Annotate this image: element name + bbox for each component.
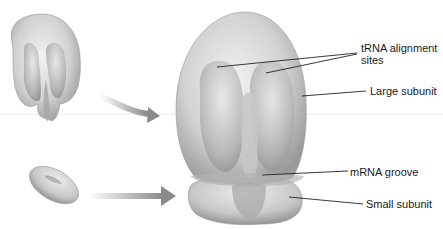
label-large-subunit: Large subunit	[370, 85, 437, 97]
leader-large-subunit	[302, 91, 366, 96]
label-mrna-groove: mRNA groove	[350, 166, 418, 178]
assembled-ribosome	[176, 12, 306, 225]
label-small-subunit: Small subunit	[366, 198, 432, 210]
label-trna-line2: sites	[361, 54, 437, 66]
separate-small-subunit	[23, 159, 85, 212]
arrow-small-to-ribosome	[88, 186, 176, 206]
diagram-canvas	[0, 0, 443, 229]
label-trna-alignment-sites: tRNA alignment sites	[361, 42, 437, 66]
separate-large-subunit	[11, 14, 80, 121]
arrow-large-to-ribosome	[100, 96, 160, 123]
label-trna-line1: tRNA alignment	[361, 42, 437, 54]
ribosome-diagram: tRNA alignment sites Large subunit mRNA …	[0, 0, 443, 229]
